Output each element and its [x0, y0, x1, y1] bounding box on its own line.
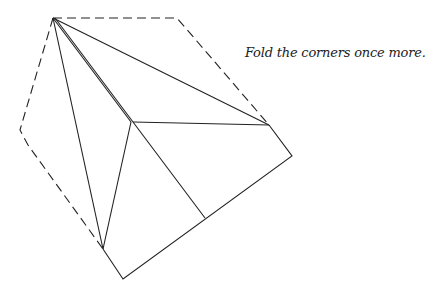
crease-line: [53, 18, 103, 249]
crease-lines: [53, 18, 269, 249]
crease-line: [133, 122, 269, 125]
crease-line: [103, 122, 131, 249]
crease-line: [53, 18, 269, 125]
crease-line: [55, 18, 205, 218]
instruction-caption: Fold the corners once more.: [245, 45, 426, 60]
dashed-outline-left: [20, 18, 103, 249]
solid-outline: [103, 125, 292, 279]
